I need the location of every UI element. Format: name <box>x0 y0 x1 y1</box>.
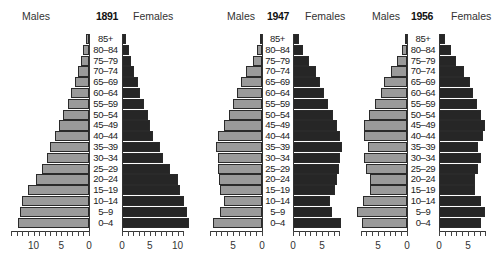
males-header: Males <box>372 10 400 22</box>
male-bar <box>369 110 407 120</box>
male-bar <box>364 120 408 130</box>
pyramid-panel-1956: Males1956Females85+80–8475–7970–7465–696… <box>0 0 497 263</box>
female-bar <box>439 207 485 217</box>
male-bar <box>363 196 407 206</box>
x-tick <box>468 231 469 236</box>
x-tick <box>384 231 385 236</box>
female-bar <box>439 110 481 120</box>
female-zero-line <box>439 34 440 231</box>
female-bar <box>439 164 478 174</box>
age-group-label: 55–59 <box>409 99 437 110</box>
x-tick <box>445 231 446 236</box>
female-bar <box>439 99 477 109</box>
age-group-label: 80–84 <box>409 45 437 56</box>
male-bar <box>370 174 407 184</box>
female-bar <box>439 56 456 66</box>
female-bar <box>439 185 475 195</box>
female-tick-label: 0 <box>436 240 442 251</box>
female-tick-label: 5 <box>465 240 471 251</box>
females-header: Females <box>451 10 491 22</box>
male-bar <box>375 99 407 109</box>
x-tick <box>474 231 475 236</box>
male-bar <box>366 164 407 174</box>
x-tick <box>456 231 457 236</box>
x-tick <box>366 231 367 236</box>
female-bar <box>439 196 481 206</box>
age-group-label: 30–34 <box>409 153 437 164</box>
male-bar <box>397 56 407 66</box>
male-tick-label: 0 <box>404 240 410 251</box>
male-bar <box>370 185 407 195</box>
x-tick <box>462 231 463 236</box>
male-bar <box>357 207 407 217</box>
female-bar <box>439 131 483 141</box>
female-bar <box>439 120 485 130</box>
female-bar <box>439 77 470 87</box>
x-tick <box>390 231 391 236</box>
age-group-label: 0–4 <box>409 218 437 229</box>
male-tick-label: 5 <box>375 240 381 251</box>
male-bar <box>384 77 407 87</box>
male-bar <box>391 66 407 76</box>
x-tick <box>485 231 486 236</box>
x-tick <box>378 231 379 236</box>
female-bar <box>439 45 451 55</box>
age-group-label: 5–9 <box>409 207 437 218</box>
male-bar <box>364 153 408 163</box>
female-bar <box>439 142 478 152</box>
x-tick <box>395 231 396 236</box>
x-tick <box>480 231 481 236</box>
male-bar <box>368 142 407 152</box>
male-bar <box>381 88 407 98</box>
year-label: 1956 <box>411 10 433 22</box>
x-tick <box>407 231 408 236</box>
male-bar <box>362 218 407 228</box>
x-tick <box>439 231 440 236</box>
x-tick <box>451 231 452 236</box>
male-zero-line <box>407 34 408 231</box>
male-bar <box>364 131 407 141</box>
x-tick <box>361 231 362 236</box>
x-tick <box>372 231 373 236</box>
female-bar <box>439 66 464 76</box>
female-bar <box>439 153 481 163</box>
female-bar <box>439 88 473 98</box>
x-tick <box>401 231 402 236</box>
female-bar <box>439 174 475 184</box>
female-bar <box>439 218 481 228</box>
